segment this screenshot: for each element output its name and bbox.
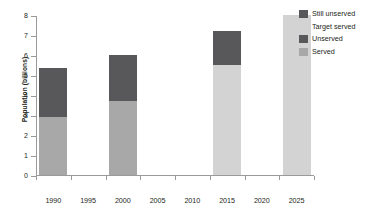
y-axis-tick-label: 0: [24, 172, 28, 179]
x-axis-label-2005: 2005: [150, 196, 166, 203]
y-axis-tick: 5: [31, 76, 36, 77]
bar-segment-still-unserved: [213, 31, 241, 65]
bar-2015[interactable]: [213, 31, 241, 175]
y-axis-tick-label: 8: [24, 12, 28, 19]
x-axis-label-2025: 2025: [289, 196, 305, 203]
x-axis-label-2015: 2015: [219, 196, 235, 203]
y-axis-tick: 3: [31, 116, 36, 117]
x-axis-tick: [245, 176, 246, 180]
bar-segment-served: [39, 117, 67, 175]
x-axis-tick: [279, 176, 280, 180]
legend-label: Still unserved: [312, 10, 355, 18]
y-axis-tick: 7: [31, 36, 36, 37]
legend-swatch-icon: [299, 10, 308, 18]
x-axis-label-1990: 1990: [45, 196, 61, 203]
plot-area: 876543210 199019952000200520102015202020…: [36, 16, 314, 176]
y-axis-tick-label: 2: [24, 132, 28, 139]
legend-swatch-icon: [299, 23, 308, 31]
bar-chart: Population (billions) 876543210 19901995…: [0, 0, 369, 203]
legend-label: Target served: [312, 23, 356, 31]
bar-segment-served: [109, 101, 137, 175]
x-axis-tick: [36, 176, 37, 180]
y-axis-tick: 8: [31, 16, 36, 17]
x-axis-tick: [71, 176, 72, 180]
x-axis-label-1995: 1995: [80, 196, 96, 203]
legend-label: Served: [312, 48, 335, 56]
y-axis-tick: 6: [31, 56, 36, 57]
y-axis-tick-label: 5: [24, 72, 28, 79]
bar-segment-unserved: [109, 55, 137, 101]
legend-item-still-unserved[interactable]: Still unserved: [299, 8, 369, 20]
y-axis-tick-label: 6: [24, 52, 28, 59]
y-axis-tick-label: 3: [24, 112, 28, 119]
legend-item-unserved[interactable]: Unserved: [299, 33, 369, 45]
legend-swatch-icon: [299, 48, 308, 56]
bar-1990[interactable]: [39, 68, 67, 175]
x-axis-tick: [210, 176, 211, 180]
y-axis-title: Population (billions): [21, 20, 28, 160]
legend-item-target-served[interactable]: Target served: [299, 21, 369, 33]
y-axis-tick-label: 1: [24, 152, 28, 159]
y-axis-tick-label: 4: [24, 92, 28, 99]
chart-legend: Still unservedTarget servedUnservedServe…: [299, 8, 369, 58]
legend-item-served[interactable]: Served: [299, 46, 369, 58]
x-axis-tick: [175, 176, 176, 180]
x-axis-tick: [140, 176, 141, 180]
y-axis-tick-label: 7: [24, 32, 28, 39]
x-axis-tick: [106, 176, 107, 180]
x-axis-label-2010: 2010: [184, 196, 200, 203]
x-axis-tick: [314, 176, 315, 180]
legend-swatch-icon: [299, 35, 308, 43]
y-axis-tick: 2: [31, 136, 36, 137]
legend-label: Unserved: [312, 35, 343, 43]
y-axis-tick: 4: [31, 96, 36, 97]
bar-2000[interactable]: [109, 55, 137, 175]
bar-segment-unserved: [39, 68, 67, 117]
y-axis-line: [36, 16, 37, 176]
bar-segment-target-served: [213, 65, 241, 175]
y-axis-tick: 1: [31, 156, 36, 157]
x-axis-label-2020: 2020: [254, 196, 270, 203]
x-axis-label-2000: 2000: [115, 196, 131, 203]
